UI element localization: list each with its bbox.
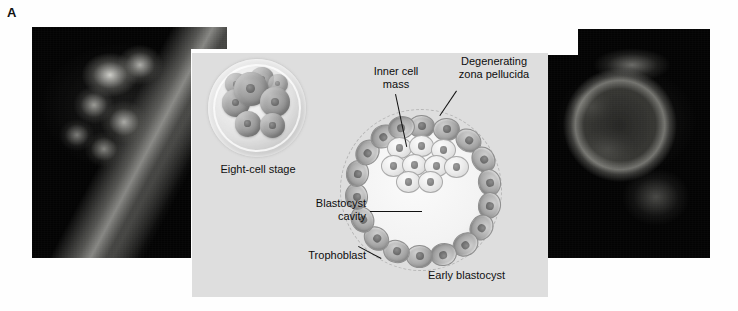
label-inner-cell-mass: Inner cell mass: [360, 65, 432, 90]
label-zona-line2: zona pellucida: [459, 68, 529, 80]
label-zona-line1: Degenerating: [461, 55, 527, 67]
figure-root: A Eight-cell stage: [0, 0, 738, 311]
label-cavity-line2: cavity: [338, 210, 366, 222]
label-inner-cell-mass-line1: Inner cell: [374, 65, 419, 77]
label-inner-cell-mass-line2: mass: [383, 78, 409, 90]
blastocyst-micrograph: [548, 29, 710, 258]
leader-line-blastocyst-cavity: [370, 211, 422, 212]
inner-cell-mass-cell: [444, 156, 469, 178]
early-blastocyst-diagram: [340, 109, 502, 271]
illustration-panel: Eight-cell stage: [192, 53, 548, 297]
blastomere: [260, 113, 285, 138]
label-cavity-line1: Blastocyst: [316, 197, 366, 209]
panel-letter-a: A: [7, 5, 17, 20]
early-blastocyst-caption: Early blastocyst: [428, 269, 505, 281]
label-trophoblast: Trophoblast: [284, 249, 366, 262]
eight-cell-stage-caption: Eight-cell stage: [202, 163, 314, 175]
blastomere: [235, 111, 261, 137]
inner-cell-mass-cell: [418, 171, 443, 193]
label-trophoblast-text: Trophoblast: [308, 249, 366, 261]
trophoblast-cell: [406, 245, 433, 268]
label-degenerating-zona-pellucida: Degenerating zona pellucida: [442, 55, 546, 80]
eight-cell-stage-diagram: [208, 59, 306, 157]
label-blastocyst-cavity: Blastocyst cavity: [288, 197, 366, 222]
micrograph-grain-overlay: [548, 29, 710, 258]
